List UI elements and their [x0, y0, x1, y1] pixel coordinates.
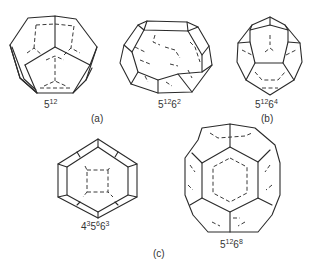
cage-5-12-6-8 [185, 124, 280, 232]
panel-label-c: (c) [153, 248, 165, 259]
formula-label-cage-1: 512 [44, 98, 57, 110]
panel-label-a: (a) [91, 113, 103, 124]
formula-label-cage-3: 51264 [255, 98, 278, 110]
formula-label-cage-5: 51268 [220, 238, 243, 250]
cage-4-3-5-6-6-3 [58, 139, 137, 218]
formula-label-cage-4: 435663 [81, 220, 110, 232]
cage-5-12 [10, 16, 97, 93]
cage-5-12-6-2 [120, 21, 212, 93]
hydrate-cage-figure: 512 51262 51264 (a) (b) 435663 51268 (c) [0, 0, 316, 264]
panel-label-b: (b) [261, 113, 273, 124]
cage-5-12-6-4 [237, 17, 302, 95]
formula-label-cage-2: 51262 [158, 98, 181, 110]
